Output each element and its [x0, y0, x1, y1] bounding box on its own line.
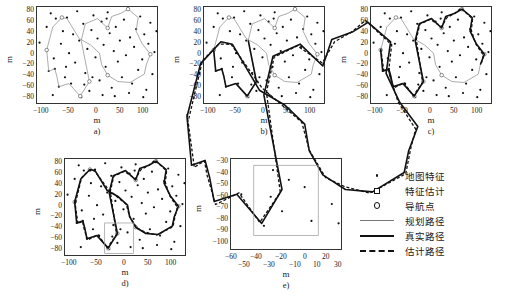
- plot-svg-e: [190, 152, 360, 282]
- figure-container: m 8060 4020 0−20 −40−60 −80 −100−50 050 …: [0, 0, 507, 304]
- plot-svg-a: [0, 0, 170, 130]
- legend-label-navigation-point: 导航点: [399, 199, 435, 213]
- legend-label-true-path: 真实路径: [399, 229, 445, 243]
- legend-label-planned-path: 规划路径: [399, 214, 445, 228]
- legend: 地图特征 特征估计 导航点 规划路径 真实路径 估计路径: [355, 168, 445, 258]
- filled-dot-icon: [355, 174, 399, 177]
- legend-label-estimated-path: 估计路径: [399, 244, 445, 258]
- dashed-line-icon: [355, 250, 399, 252]
- legend-item-feature-estimate: 特征估计: [355, 183, 445, 198]
- legend-item-navigation-point: 导航点: [355, 198, 445, 213]
- legend-item-map-feature: 地图特征: [355, 168, 445, 183]
- plot-svg-d: [28, 152, 198, 282]
- legend-label-feature-estimate: 特征估计: [399, 184, 445, 198]
- legend-item-estimated-path: 估计路径: [355, 243, 445, 258]
- plot-svg-c: [334, 0, 504, 130]
- open-circle-icon: [355, 202, 399, 209]
- thick-line-icon: [355, 235, 399, 237]
- plot-svg-b: [167, 0, 337, 130]
- legend-item-true-path: 真实路径: [355, 228, 445, 243]
- open-square-icon: [355, 188, 399, 194]
- legend-item-planned-path: 规划路径: [355, 213, 445, 228]
- legend-label-map-feature: 地图特征: [399, 169, 445, 183]
- thin-line-icon: [355, 220, 399, 221]
